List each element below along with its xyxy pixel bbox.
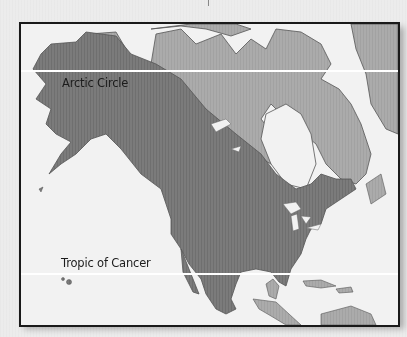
north-america-map: Arctic Circle Tropic of Cancer (19, 22, 400, 327)
top-mark (208, 0, 209, 6)
arctic-circle-line (21, 70, 398, 72)
arctic-circle-label: Arctic Circle (62, 75, 128, 90)
tropic-of-cancer-label: Tropic of Cancer (61, 255, 151, 270)
tropic-of-cancer-line (21, 273, 398, 275)
